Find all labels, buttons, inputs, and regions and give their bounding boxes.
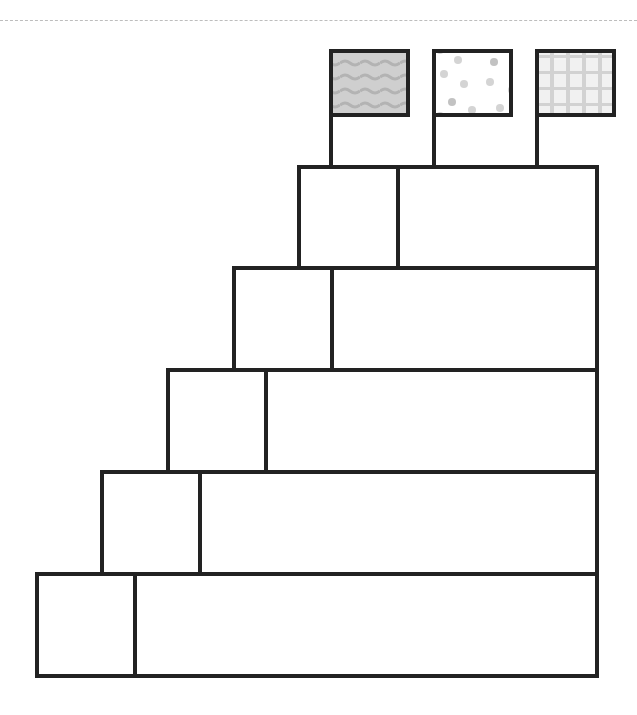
table-row-4	[102, 472, 597, 574]
flag-plaid	[537, 51, 614, 167]
flag-dots	[434, 51, 511, 167]
table-row-2	[234, 268, 597, 370]
table-row-1	[299, 167, 597, 268]
flag-wavy	[331, 51, 408, 167]
table-row-3	[168, 370, 597, 472]
table-row-5	[37, 574, 597, 676]
staircase-diagram	[0, 0, 637, 715]
